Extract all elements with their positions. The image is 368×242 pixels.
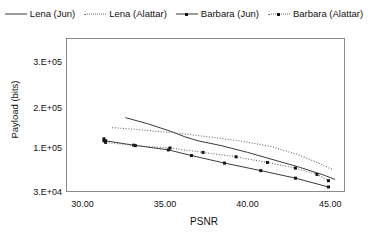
series-3-marker-9 — [327, 179, 330, 182]
x-tick-label: 45.00 — [300, 200, 360, 209]
series-3-marker-1 — [104, 141, 107, 144]
series-3-marker-6 — [266, 161, 269, 164]
series-2-marker-6 — [259, 169, 262, 172]
x-axis-title: PSNR — [0, 216, 368, 227]
series-3-marker-8 — [315, 173, 318, 176]
legend-item-barbara-jun: Barbara (Jun) — [176, 9, 259, 19]
series-line-2 — [104, 139, 329, 187]
x-axis-title-text: PSNR — [150, 216, 218, 227]
x-tick-label: 35.00 — [135, 200, 195, 209]
series-2-marker-7 — [294, 177, 297, 180]
plot-curves — [66, 38, 345, 192]
legend-swatch-solid-marker-line-icon — [176, 9, 198, 19]
legend-item-barbara-alattar: Barbara (Alattar) — [268, 9, 363, 19]
legend-item-lena-alattar: Lena (Alattar) — [84, 9, 167, 19]
series-2-marker-8 — [327, 185, 330, 188]
series-3-marker-4 — [202, 151, 205, 154]
legend-swatch-dotted-line-icon — [84, 9, 106, 19]
legend-label: Barbara (Jun) — [201, 9, 259, 19]
chart-figure: Lena (Jun) Lena (Alattar) Barbara (Jun) … — [0, 0, 368, 242]
legend-swatch-dotted-marker-line-icon — [268, 9, 290, 19]
series-3-marker-2 — [134, 144, 137, 147]
x-tick-label: 30.00 — [53, 200, 113, 209]
legend-label: Barbara (Alattar) — [293, 9, 363, 19]
series-line-1 — [112, 128, 333, 170]
x-tick-label: 40.00 — [218, 200, 278, 209]
series-2-marker-4 — [190, 154, 193, 157]
series-3-marker-5 — [235, 155, 238, 158]
legend-label: Lena (Alattar) — [109, 9, 167, 19]
y-tick-label: 3.E+04 — [2, 188, 62, 197]
series-2-marker-5 — [223, 162, 226, 165]
series-3-marker-3 — [169, 147, 172, 150]
y-axis-title: Payload (bits) — [9, 65, 20, 155]
series-3-marker-7 — [294, 167, 297, 170]
